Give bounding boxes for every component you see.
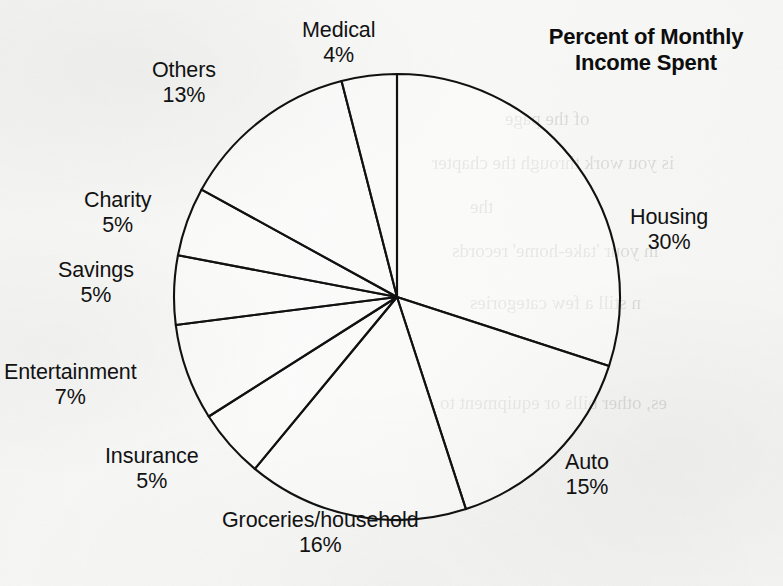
chart-title-line-2: Income Spent <box>520 50 772 76</box>
pie-label-percent-insurance: 5% <box>105 469 199 494</box>
pie-label-name-entertainment: Entertainment <box>4 360 137 384</box>
pie-label-charity: Charity5% <box>84 188 151 237</box>
pie-label-entertainment: Entertainment7% <box>4 360 137 409</box>
pie-label-percent-charity: 5% <box>84 213 151 238</box>
pie-label-name-charity: Charity <box>84 188 151 212</box>
pie-label-percent-others: 13% <box>152 83 216 108</box>
pie-label-insurance: Insurance5% <box>105 444 199 493</box>
pie-label-name-housing: Housing <box>630 205 708 229</box>
pie-label-others: Others13% <box>152 58 216 107</box>
chart-title-line-1: Percent of Monthly <box>520 24 772 50</box>
pie-slice-group <box>174 74 620 520</box>
pie-label-percent-savings: 5% <box>58 283 134 308</box>
pie-label-name-groceries-household: Groceries/household <box>222 508 419 532</box>
pie-label-name-savings: Savings <box>58 258 134 282</box>
pie-label-savings: Savings5% <box>58 258 134 307</box>
pie-label-percent-entertainment: 7% <box>4 385 137 410</box>
pie-label-auto: Auto15% <box>565 450 609 499</box>
pie-label-name-others: Others <box>152 58 216 82</box>
pie-label-housing: Housing30% <box>630 205 708 254</box>
pie-label-medical: Medical4% <box>302 18 375 67</box>
pie-label-percent-housing: 30% <box>630 230 708 255</box>
pie-label-groceries-household: Groceries/household16% <box>222 508 419 557</box>
pie-label-percent-medical: 4% <box>302 43 375 68</box>
pie-label-percent-groceries-household: 16% <box>222 533 419 558</box>
pie-label-name-medical: Medical <box>302 18 375 42</box>
pie-label-name-insurance: Insurance <box>105 444 199 468</box>
pie-label-name-auto: Auto <box>565 450 609 474</box>
pie-chart-page: of the page is you work through the chap… <box>0 0 783 586</box>
pie-label-percent-auto: 15% <box>565 475 609 500</box>
chart-title: Percent of Monthly Income Spent <box>520 24 772 77</box>
